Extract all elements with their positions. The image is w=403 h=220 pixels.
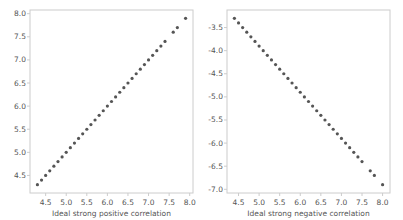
data-point [237,21,240,24]
data-point [61,155,64,158]
y-tick-label: -5.5 [208,115,223,124]
data-point [184,17,187,20]
data-point [163,40,166,43]
data-point [93,118,96,121]
x-tick-label: 6.0 [101,198,113,207]
data-point [303,95,306,98]
data-point [311,105,314,108]
data-point [98,114,101,117]
data-point [172,31,175,34]
y-tick-label: 7.0 [14,55,26,64]
data-point [159,44,162,47]
data-point [290,81,293,84]
x-tick-label: 4.5 [40,198,52,207]
x-tick-label: 5.5 [274,198,286,207]
data-point [102,109,105,112]
data-point [89,123,92,126]
y-tick-label: 8.0 [14,9,26,18]
data-point [278,68,281,71]
data-point [270,58,273,61]
data-point [344,141,347,144]
data-point [73,141,76,144]
positive-correlation-plot: 4.55.05.56.06.57.07.58.04.55.05.56.06.57… [0,0,200,220]
negative-correlation-plot: 4.55.05.56.06.57.07.58.0-3.5-4.0-4.5-5.0… [200,0,403,220]
data-point [126,81,129,84]
data-point [262,49,265,52]
data-point [36,183,39,186]
data-point [307,100,310,103]
data-point [122,86,125,89]
y-tick-label: -4.5 [208,69,223,78]
data-point [299,91,302,94]
x-tick-label: 6.0 [294,198,306,207]
data-point [249,35,252,38]
x-tick-label: 6.5 [122,198,134,207]
data-point [327,123,330,126]
data-point [286,77,289,80]
data-point [274,63,277,66]
data-point [233,17,236,20]
data-point [56,160,59,163]
data-point [319,114,322,117]
data-point [139,68,142,71]
y-tick-label: -6.5 [208,162,223,171]
data-point [373,174,376,177]
data-point [52,165,55,168]
x-tick-label: 6.5 [315,198,327,207]
data-point [315,109,318,112]
y-tick-label: -4.0 [208,46,223,55]
data-point [282,72,285,75]
data-point [381,183,384,186]
x-tick-label: 8.0 [377,198,389,207]
x-tick-label: 8.0 [184,198,196,207]
y-tick-label: 6.0 [14,102,26,111]
y-tick-label: -3.5 [208,23,223,32]
data-point [340,137,343,140]
data-point [323,118,326,121]
data-point [48,169,51,172]
data-point [151,54,154,57]
negative-correlation-chart: 4.55.05.56.06.57.07.58.0-3.5-4.0-4.5-5.0… [200,0,403,220]
data-point [356,155,359,158]
y-tick-label: -5.0 [208,92,223,101]
y-tick-label: 5.5 [14,125,26,134]
y-tick-label: 4.5 [14,171,26,180]
data-point [295,86,298,89]
data-point [143,63,146,66]
data-point [369,169,372,172]
data-point [155,49,158,52]
data-point [77,137,80,140]
data-point [241,26,244,29]
data-point [266,54,269,57]
data-point [65,151,68,154]
x-axis-label: Ideal strong negative correlation [247,209,370,218]
data-point [69,146,72,149]
data-point [348,146,351,149]
y-tick-label: 6.5 [14,79,26,88]
data-point [332,128,335,131]
data-point [147,58,150,61]
data-point [258,44,261,47]
data-point [118,91,121,94]
y-tick-label: -6.0 [208,139,223,148]
x-tick-label: 5.0 [253,198,265,207]
data-point [352,151,355,154]
x-tick-label: 7.5 [356,198,368,207]
data-point [176,26,179,29]
data-point [336,132,339,135]
y-tick-label: -7.0 [208,185,223,194]
data-point [245,31,248,34]
data-point [81,132,84,135]
data-point [130,77,133,80]
data-point [253,40,256,43]
y-tick-label: 5.0 [14,148,26,157]
x-axis-label: Ideal strong positive correlation [52,209,171,218]
data-point [106,105,109,108]
y-tick-label: 7.5 [14,32,26,41]
data-point [135,72,138,75]
data-point [110,100,113,103]
x-tick-label: 7.0 [335,198,347,207]
x-tick-label: 7.0 [143,198,155,207]
x-tick-label: 5.5 [81,198,93,207]
data-point [85,128,88,131]
